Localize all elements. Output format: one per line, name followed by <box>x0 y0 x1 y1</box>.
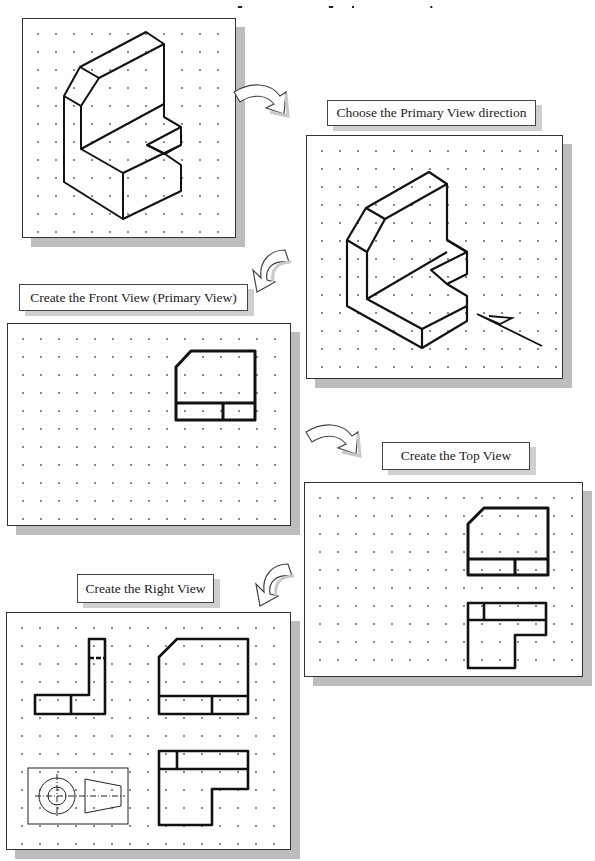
projection-symbol-icon <box>28 768 128 824</box>
title-descenders <box>0 6 595 8</box>
panel-isometric <box>22 18 236 238</box>
panel-front-view <box>7 323 291 526</box>
panel-primary-direction <box>306 135 563 379</box>
curved-arrow-right-icon <box>302 420 362 458</box>
step-label-top-view: Create the Top View <box>382 442 530 470</box>
isometric-with-view-arrow <box>307 136 564 380</box>
front-view-drawing <box>8 324 292 527</box>
step-label-right-view: Create the Right View <box>77 574 214 603</box>
isometric-drawing <box>23 19 237 239</box>
top-view <box>159 751 248 825</box>
panel-top-view <box>304 482 583 677</box>
right-view <box>35 639 105 714</box>
panel-right-view <box>6 612 291 850</box>
curved-arrow-down-left-icon <box>248 560 300 610</box>
front-view <box>159 639 248 714</box>
curved-arrow-down-left-icon <box>245 246 297 296</box>
step-label-front-view: Create the Front View (Primary View) <box>19 284 248 311</box>
front-and-top-view-drawing <box>305 483 584 678</box>
page-title-clipped <box>0 0 595 8</box>
three-view-drawing <box>7 613 292 851</box>
curved-arrow-right-icon <box>230 80 290 118</box>
step-label-choose-primary: Choose the Primary View direction <box>327 100 536 126</box>
